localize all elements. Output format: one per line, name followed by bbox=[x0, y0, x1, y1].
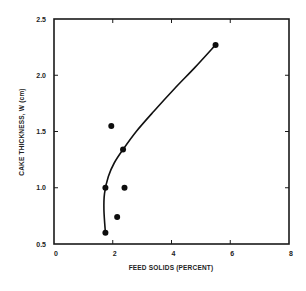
data-point bbox=[122, 185, 128, 191]
x-axis-title: FEED SOLIDS (PERCENT) bbox=[129, 264, 214, 272]
x-tick-label: 8 bbox=[289, 250, 293, 257]
x-tick-label: 4 bbox=[172, 250, 176, 257]
fitted-curve bbox=[104, 45, 216, 233]
data-point bbox=[102, 230, 108, 236]
data-point bbox=[102, 185, 108, 191]
data-points bbox=[102, 42, 218, 236]
chart: 0.51.01.52.02.5 02468 FEED SOLIDS (PERCE… bbox=[0, 0, 306, 291]
y-tick-label: 1.0 bbox=[36, 184, 46, 191]
x-tick-label: 2 bbox=[113, 250, 117, 257]
y-tick-label: 0.5 bbox=[36, 241, 46, 248]
x-tick-label: 0 bbox=[54, 250, 58, 257]
x-tick-label: 6 bbox=[230, 250, 234, 257]
y-axis-title: CAKE THICKNESS, W (cm) bbox=[18, 88, 26, 175]
x-axis-ticks: 02468 bbox=[54, 19, 293, 257]
y-axis-ticks: 0.51.01.52.02.5 bbox=[36, 16, 289, 248]
y-tick-label: 2.5 bbox=[36, 16, 46, 23]
data-point bbox=[120, 147, 126, 153]
y-tick-label: 2.0 bbox=[36, 72, 46, 79]
data-point bbox=[213, 42, 219, 48]
plot-frame bbox=[54, 19, 289, 244]
y-tick-label: 1.5 bbox=[36, 128, 46, 135]
data-point bbox=[108, 123, 114, 129]
data-point bbox=[114, 214, 120, 220]
